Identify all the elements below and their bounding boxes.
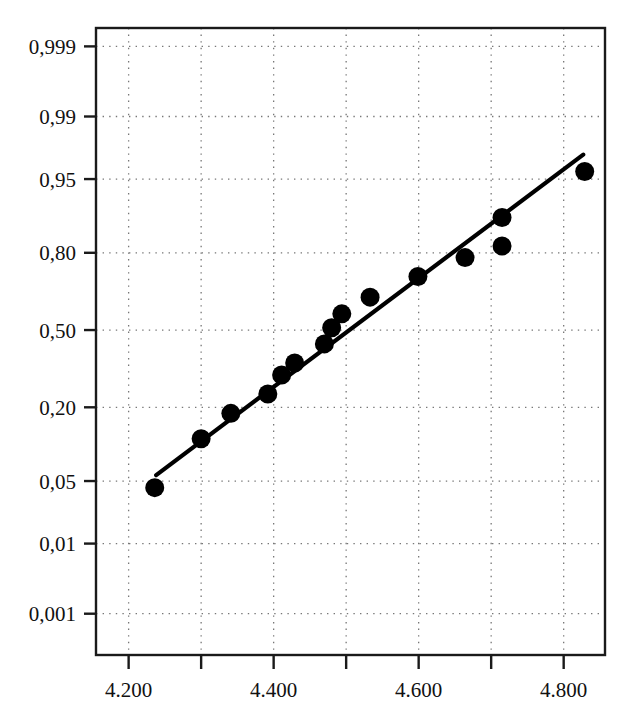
x-axis-tick-label: 4.400 <box>250 678 297 702</box>
data-point <box>493 208 512 227</box>
y-axis-tick-label: 0,99 <box>39 105 76 129</box>
data-point <box>332 304 351 323</box>
y-axis-tick-label: 0,01 <box>39 532 76 556</box>
data-point <box>285 353 304 372</box>
y-axis-tick-label: 0,999 <box>29 35 76 59</box>
data-point <box>315 334 334 353</box>
data-point <box>221 404 240 423</box>
x-axis-tick-label: 4.600 <box>395 678 442 702</box>
data-point <box>361 288 380 307</box>
y-axis-tick-label: 0,50 <box>39 319 76 343</box>
data-point <box>493 237 512 256</box>
probability-plot-figure: 0,9990,990,950,800,500,200,050,010,001 4… <box>0 0 640 725</box>
y-axis-tick-label: 0,05 <box>39 470 76 494</box>
y-axis-tick-label: 0,20 <box>39 396 76 420</box>
x-axis-tick-label: 4.800 <box>540 678 587 702</box>
data-point <box>456 248 475 267</box>
data-point <box>575 162 594 181</box>
data-point <box>192 429 211 448</box>
data-point <box>408 267 427 286</box>
x-axis-tick-label: 4.200 <box>105 678 152 702</box>
plot-canvas: 0,9990,990,950,800,500,200,050,010,001 4… <box>0 0 640 725</box>
data-point <box>258 384 277 403</box>
data-point <box>145 478 164 497</box>
y-axis-tick-label: 0,001 <box>29 602 76 626</box>
y-axis-tick-label: 0,80 <box>39 241 76 265</box>
y-axis-tick-label: 0,95 <box>39 168 76 192</box>
